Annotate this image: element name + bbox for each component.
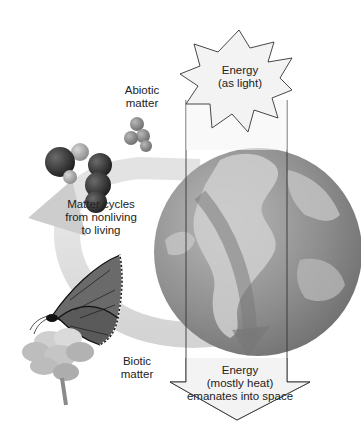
label-line: Energy [206,64,274,77]
matter-cycle-label: Matter cycles from nonliving to living [64,198,138,237]
label-line: Biotic [112,355,162,368]
label-line: Energy [180,364,300,377]
globe-icon [154,148,361,356]
biotic-matter-label: Biotic matter [112,355,162,381]
label-line: Abiotic [112,84,172,97]
label-line: Matter cycles [64,198,138,211]
label-line: from nonliving [64,211,138,224]
label-line: matter [112,368,162,381]
label-line: (mostly heat) [180,377,300,390]
label-line: (as light) [206,77,274,90]
label-line: emanates into space [180,390,300,403]
flower-icon [22,328,94,405]
energy-in-label: Energy (as light) [206,64,274,90]
molecule-icon [124,117,152,152]
energy-out-label: Energy (mostly heat) emanates into space [180,364,300,403]
label-line: matter [112,97,172,110]
abiotic-matter-label: Abiotic matter [112,84,172,110]
diagram: Abiotic matter Energy (as light) Matter … [0,0,361,440]
label-line: to living [64,224,138,237]
